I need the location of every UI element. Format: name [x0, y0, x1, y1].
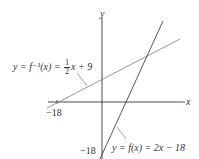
fraction-one-half: 12	[64, 59, 70, 76]
graph-canvas	[0, 0, 199, 159]
x-axis-label: x	[186, 97, 190, 107]
x-tick-label: −18	[46, 108, 62, 118]
inverse-label-suffix: x + 9	[71, 61, 92, 72]
inverse-function-label: y = f⁻¹(x) = 12x + 9	[13, 59, 92, 76]
function-line	[100, 21, 163, 159]
inverse-label-prefix: y = f⁻¹(x) =	[13, 61, 63, 72]
y-axis-label: y	[100, 9, 104, 19]
function-label: y = f(x) = 2x − 18	[112, 143, 185, 153]
y-tick-label: −18	[80, 146, 96, 156]
fraction-denominator: 2	[64, 68, 70, 76]
function-leader-line	[117, 127, 126, 139]
